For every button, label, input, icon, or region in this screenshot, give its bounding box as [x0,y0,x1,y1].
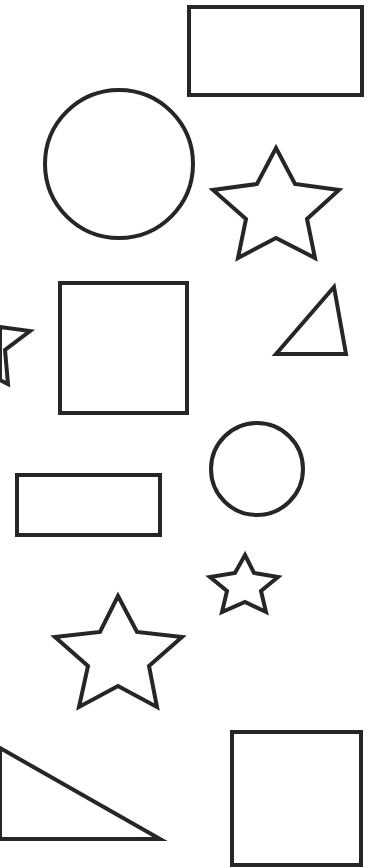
square-shape [60,283,187,413]
rectangle-wide-shape [17,475,160,535]
star-partial-shape [0,327,30,384]
circle-small-shape [211,423,303,515]
rectangle-shape [189,7,362,95]
shapes-canvas [0,0,383,868]
star-shape [213,148,339,258]
triangle-shape [276,287,346,354]
triangle-right-shape [0,748,160,839]
square-bottom-shape [232,732,361,865]
circle-shape [45,90,193,238]
star-small-shape [210,555,278,612]
star-medium-shape [55,596,182,707]
